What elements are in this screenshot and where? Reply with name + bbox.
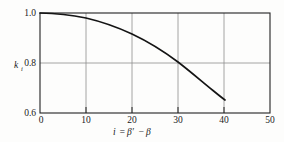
xtick-label-50: 50 <box>265 115 275 125</box>
x-axis-title-equals: = <box>119 127 125 137</box>
x-axis-title-beta-prime: β′ <box>126 127 135 137</box>
x-axis-title: i = β′ − β <box>113 127 151 137</box>
x-axis-title-beta: β <box>145 127 151 137</box>
xtick-label-10: 10 <box>81 115 91 125</box>
xtick-label-0: 0 <box>39 115 44 125</box>
xtick-label-20: 20 <box>127 115 137 125</box>
x-axis-title-i: i <box>113 127 116 137</box>
chart-figure: 1.0 0.8 0.6 0 10 20 30 40 50 k i i = β′ … <box>0 0 284 142</box>
xtick-label-40: 40 <box>219 115 229 125</box>
y-axis-title-subscript: i <box>21 65 23 72</box>
ytick-label-0.6: 0.6 <box>24 108 36 118</box>
ytick-label-0.8: 0.8 <box>24 58 36 68</box>
xtick-label-30: 30 <box>173 115 183 125</box>
ytick-label-1.0: 1.0 <box>24 8 36 18</box>
chart-plot-area: 1.0 0.8 0.6 0 10 20 30 40 50 k i i = β′ … <box>0 0 284 142</box>
x-axis-title-minus: − <box>138 127 144 137</box>
